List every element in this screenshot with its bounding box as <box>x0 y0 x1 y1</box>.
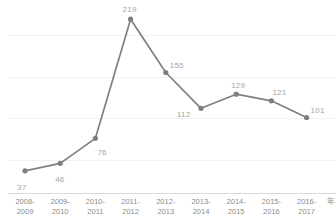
x-axis-tick-line: 2010 <box>43 207 77 217</box>
x-axis-tick-line: 2016 <box>254 207 288 217</box>
x-axis-tick-label: 2009-2010 <box>43 197 77 216</box>
x-axis-tick-line: 2016- <box>290 197 324 207</box>
x-axis-tick-label: 2008-2009 <box>8 197 42 216</box>
data-point <box>304 115 309 120</box>
x-axis-tick-line: 2011- <box>114 197 148 207</box>
data-point <box>128 17 133 22</box>
data-series <box>0 0 336 194</box>
x-axis-tick-line: 2013- <box>184 197 218 207</box>
x-axis-tick-label: 2010-2011 <box>78 197 112 216</box>
series-markers <box>22 17 309 174</box>
axis-unit-label: 年 <box>327 197 334 207</box>
data-point <box>22 168 27 173</box>
x-axis-tick-line: 2015 <box>219 207 253 217</box>
data-point <box>58 161 63 166</box>
data-point <box>163 70 168 75</box>
x-axis-tick-line: 2015- <box>254 197 288 207</box>
data-point-label: 46 <box>55 175 64 184</box>
x-axis-tick-label: 2014-2015 <box>219 197 253 216</box>
x-axis-tick-line: 2014 <box>184 207 218 217</box>
x-axis-labels: 2008-20092009-20102010-20112011-20122012… <box>0 196 336 217</box>
data-point-label: 219 <box>123 5 137 14</box>
x-axis-tick-line: 2012 <box>114 207 148 217</box>
x-axis-tick-label: 2011-2012 <box>114 197 148 216</box>
data-point <box>269 98 274 103</box>
x-axis-tick-line: 2014- <box>219 197 253 207</box>
data-point-label: 112 <box>177 110 190 119</box>
data-point-label: 76 <box>97 148 106 157</box>
x-axis-line <box>8 193 336 194</box>
data-point <box>93 136 98 141</box>
x-axis-tick-line: 2011 <box>78 207 112 217</box>
data-point-label: 101 <box>311 106 325 115</box>
x-axis-tick-line: 2017 <box>290 207 324 217</box>
data-point-label: 121 <box>272 88 286 97</box>
data-point <box>198 106 203 111</box>
x-axis-tick-line: 2010- <box>78 197 112 207</box>
x-axis-tick-line: 2008- <box>8 197 42 207</box>
data-point-label: 37 <box>17 183 26 192</box>
x-axis-tick-line: 2012- <box>149 197 183 207</box>
x-axis-tick-label: 2015-2016 <box>254 197 288 216</box>
plot-area: 374676219155112129121101 <box>0 0 336 194</box>
data-point-label: 155 <box>170 61 184 70</box>
x-axis-tick-label: 2013-2014 <box>184 197 218 216</box>
x-axis-tick-label: 2016-2017 <box>290 197 324 216</box>
data-point-label: 129 <box>231 81 245 90</box>
x-axis-tick-label: 2012-2013 <box>149 197 183 216</box>
x-axis-tick-line: 2013 <box>149 207 183 217</box>
data-point <box>234 92 239 97</box>
x-axis-tick-line: 2009 <box>8 207 42 217</box>
line-chart: 374676219155112129121101 2008-20092009-2… <box>0 0 336 217</box>
series-line <box>25 19 307 171</box>
x-axis-tick-line: 2009- <box>43 197 77 207</box>
